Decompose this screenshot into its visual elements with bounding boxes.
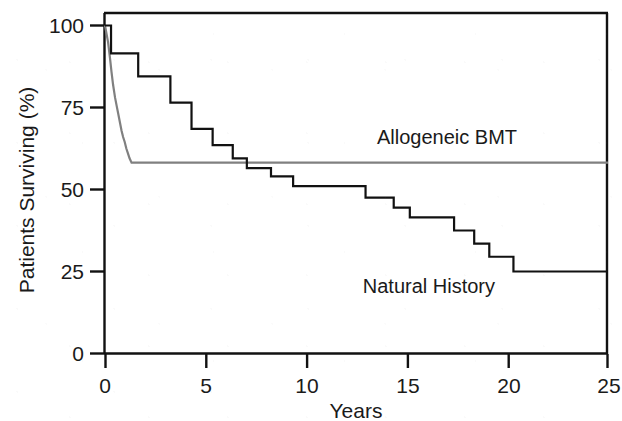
y-axis-title: Patients Surviving (%) [15,87,38,294]
series-label-natural-history: Natural History [363,275,495,297]
x-tick-label-15: 15 [396,374,419,397]
y-tick-label-0: 0 [72,342,84,365]
series-layer [105,26,608,272]
y-tick-label-75: 75 [61,96,84,119]
x-axis-tick-labels: 0 5 10 15 20 25 [99,374,621,397]
x-axis-title: Years [330,399,383,421]
x-tick-label-25: 25 [597,374,620,397]
survival-chart-figure: 100 75 50 25 0 0 5 10 15 20 25 Patients … [0,0,622,421]
series-line-allogeneic-bmt [105,26,608,163]
series-line-natural-history [105,26,608,272]
y-tick-label-50: 50 [61,178,84,201]
y-axis-ticks [90,26,104,354]
x-tick-label-10: 10 [295,374,318,397]
plot-frame [104,13,608,354]
x-tick-label-20: 20 [497,374,520,397]
x-tick-label-5: 5 [200,374,212,397]
series-annotations: Allogeneic BMTNatural History [363,126,517,297]
x-axis-ticks [106,354,608,368]
kaplan-meier-chart: 100 75 50 25 0 0 5 10 15 20 25 Patients … [0,0,622,421]
series-label-allogeneic-bmt: Allogeneic BMT [377,126,517,148]
y-axis-tick-labels: 100 75 50 25 0 [49,14,84,365]
x-tick-label-0: 0 [99,374,111,397]
y-tick-label-25: 25 [61,260,84,283]
y-tick-label-100: 100 [49,14,84,37]
